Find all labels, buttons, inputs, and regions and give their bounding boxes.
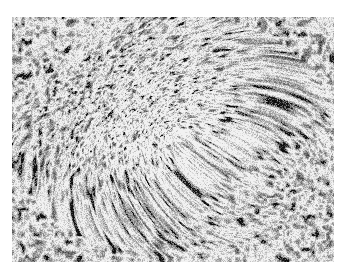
micrograph-image bbox=[12, 17, 334, 262]
tissue-texture bbox=[12, 17, 334, 262]
